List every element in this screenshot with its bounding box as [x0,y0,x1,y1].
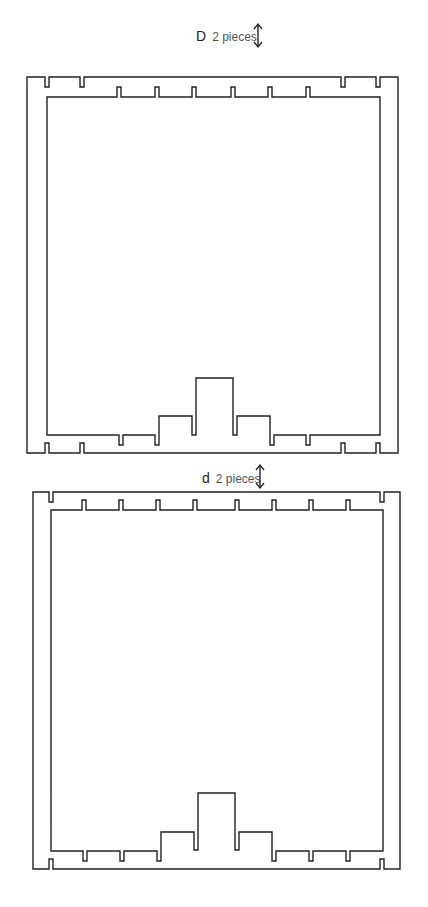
piece-d-inner-outline [51,500,383,861]
vertical-double-arrow-icon [254,24,262,47]
piece-d-outer-outline [33,492,400,869]
pattern-drawing [0,0,428,907]
piece-D-inner-outline [47,87,380,445]
vertical-double-arrow-icon [256,465,264,488]
piece-D-outer-outline [27,77,398,453]
